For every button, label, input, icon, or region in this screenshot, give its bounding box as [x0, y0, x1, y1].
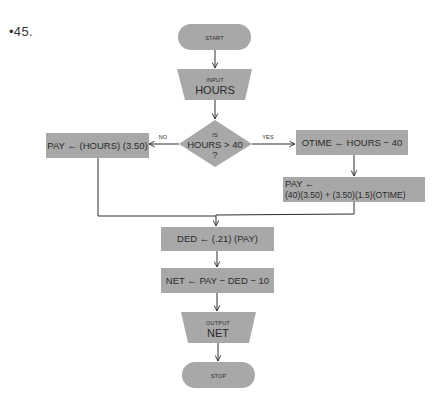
start-label: START: [205, 35, 224, 41]
output-net-shape: OUTPUT NET: [181, 312, 256, 343]
overtime-hours-box: OTIME ← HOURS − 40: [296, 130, 408, 155]
stop-terminal: STOP: [182, 362, 255, 388]
merge-line-right: [216, 202, 354, 215]
no-edge-label: NO: [159, 134, 168, 140]
merge-line-left: [98, 158, 216, 216]
input-label: INPUT: [206, 77, 224, 83]
overtime-hours-label: OTIME ← HOURS − 40: [302, 137, 403, 148]
overtime-pay-line1: PAY ←: [285, 178, 315, 189]
input-hours-shape: INPUT HOURS: [177, 69, 252, 100]
overtime-pay-box: PAY ← (40)(3.50) + (3.50)(1.5)(OTIME): [283, 177, 425, 202]
stop-label: STOP: [211, 373, 227, 379]
yes-edge-label: YES: [262, 134, 274, 140]
flowchart: START INPUT HOURS IS HOURS > 40 ? NO PAY…: [0, 0, 444, 404]
net-box: NET ← PAY − DED − 10: [161, 268, 274, 293]
input-variable: HOURS: [195, 84, 235, 96]
regular-pay-label: PAY ← (HOURS) (3.50): [47, 140, 147, 151]
regular-pay-box: PAY ← (HOURS) (3.50): [46, 133, 149, 158]
deduction-box: DED ← (.21) (PAY): [161, 227, 274, 251]
output-variable: NET: [207, 327, 229, 339]
decision-line1: IS: [212, 132, 218, 138]
start-terminal: START: [178, 24, 251, 50]
decision-question-mark: ?: [212, 149, 217, 160]
net-label: NET ← PAY − DED − 10: [166, 275, 269, 286]
output-label: OUTPUT: [206, 320, 230, 326]
decision-diamond: IS HOURS > 40 ?: [179, 120, 252, 167]
deduction-label: DED ← (.21) (PAY): [177, 233, 258, 244]
overtime-pay-line2: (40)(3.50) + (3.50)(1.5)(OTIME): [285, 190, 406, 200]
